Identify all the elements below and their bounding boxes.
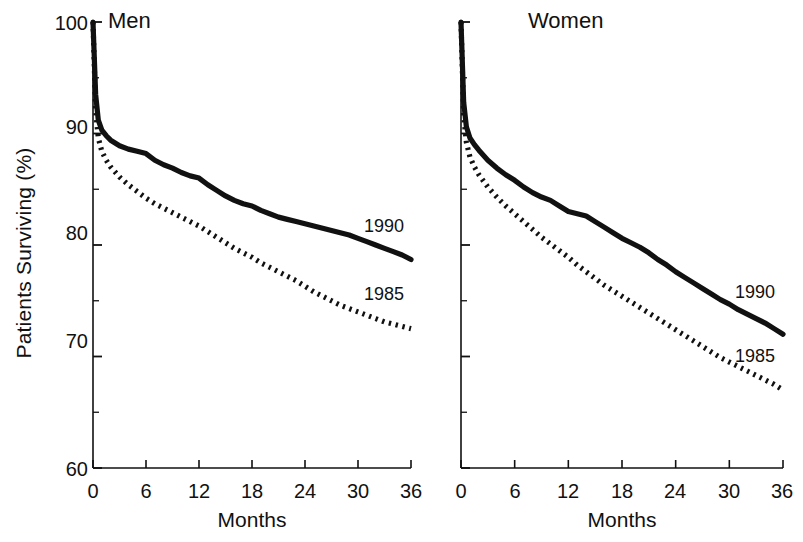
x-tick-label-men-24: 24 [288,480,322,503]
x-tick-label-men-6: 6 [129,480,163,503]
x-axis-title-women: Months [532,508,712,532]
x-tick-label-women-6: 6 [498,480,532,503]
series-annotation-1985-women: 1985 [735,346,775,367]
series-annotation-1990-men: 1990 [364,216,404,237]
series-annotation-1990-women: 1990 [735,282,775,303]
x-tick-label-women-36: 36 [765,480,799,503]
panel-men: Men 100 90 80 70 60 0 6 12 18 24 30 36 M… [0,0,440,542]
x-tick-label-women-18: 18 [605,480,639,503]
axis-ticks-men [93,22,411,468]
x-tick-label-women-0: 0 [444,480,478,503]
series-line-1985-men [93,22,411,329]
x-tick-label-men-0: 0 [76,480,110,503]
y-tick-label-80: 80 [40,222,88,245]
y-tick-label-70: 70 [40,330,88,353]
x-tick-label-women-12: 12 [551,480,585,503]
y-tick-label-60: 60 [40,458,88,481]
x-tick-label-men-18: 18 [235,480,269,503]
x-tick-label-men-12: 12 [182,480,216,503]
series-annotation-1985-men: 1985 [364,284,404,305]
y-tick-label-90: 90 [40,116,88,139]
panel-women: Women 0 6 12 18 24 30 36 Months 1990 198… [420,0,803,542]
survival-chart-figure: Patients Surviving (%) Men 100 90 80 70 … [0,0,803,542]
x-axis-title-men: Months [162,508,342,532]
plot-area-women [420,0,803,542]
x-tick-label-men-30: 30 [341,480,375,503]
x-tick-label-women-30: 30 [712,480,746,503]
y-tick-label-100: 100 [40,12,88,35]
series-line-1985-women [461,22,783,390]
axis-ticks-women [461,22,783,468]
x-tick-label-women-24: 24 [658,480,692,503]
